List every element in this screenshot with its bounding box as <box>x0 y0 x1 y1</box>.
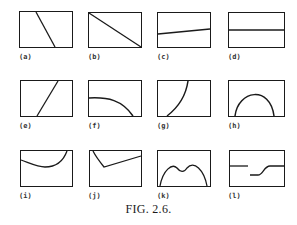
panel-k-label: (k) <box>157 192 170 200</box>
panel-f-label: (f) <box>88 122 101 130</box>
panel-d-label: (d) <box>228 53 241 61</box>
panel-e-curve <box>37 81 58 116</box>
panel-c-curve <box>158 29 210 34</box>
panel-a-label: (a) <box>19 53 32 61</box>
panel-h-frame <box>229 81 285 117</box>
figure-canvas <box>0 0 297 225</box>
panel-h-label: (h) <box>228 122 241 130</box>
panel-j-curve <box>93 151 141 167</box>
panel-i-label: (i) <box>19 192 32 200</box>
panel-l-label: (l) <box>228 192 241 200</box>
panel-k-curve <box>160 165 207 186</box>
panel-l-frame <box>230 151 285 187</box>
figure-caption: FIG. 2.6. <box>0 202 297 217</box>
panel-f-curve <box>89 98 133 116</box>
panel-b-curve <box>89 13 141 47</box>
panel-j-label: (j) <box>88 192 101 200</box>
panel-g-label: (g) <box>157 122 170 130</box>
panel-b-label: (b) <box>88 53 101 61</box>
panel-g-frame <box>158 81 211 117</box>
panel-e-frame <box>21 81 73 117</box>
panel-k-frame <box>158 151 211 187</box>
panel-e-label: (e) <box>19 122 32 130</box>
panel-j-frame <box>90 151 142 187</box>
panel-l-right-segment <box>250 166 284 175</box>
panel-g-curve <box>167 81 188 116</box>
panel-h-curve <box>235 95 274 116</box>
panel-i-curve <box>21 151 67 167</box>
panel-a-curve <box>36 12 55 47</box>
panel-c-label: (c) <box>157 53 170 61</box>
